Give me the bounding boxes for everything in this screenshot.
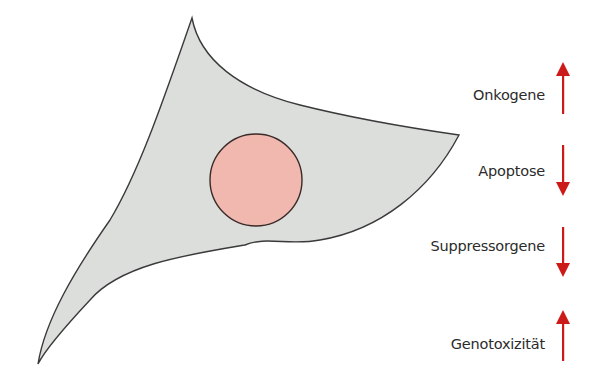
label-genotoxizitaet: Genotoxizität: [451, 336, 545, 352]
arrow-down-icon: [555, 145, 571, 196]
label-apoptose: Apoptose: [478, 163, 545, 179]
arrow-up-icon: [555, 62, 571, 114]
label-suppressorgene: Suppressorgene: [431, 238, 546, 254]
cell-nucleus: [210, 134, 302, 226]
arrow-up-icon: [555, 310, 571, 361]
arrow-down-icon: [555, 227, 571, 277]
cell-diagram: [0, 0, 605, 381]
label-onkogene: Onkogene: [473, 87, 545, 103]
